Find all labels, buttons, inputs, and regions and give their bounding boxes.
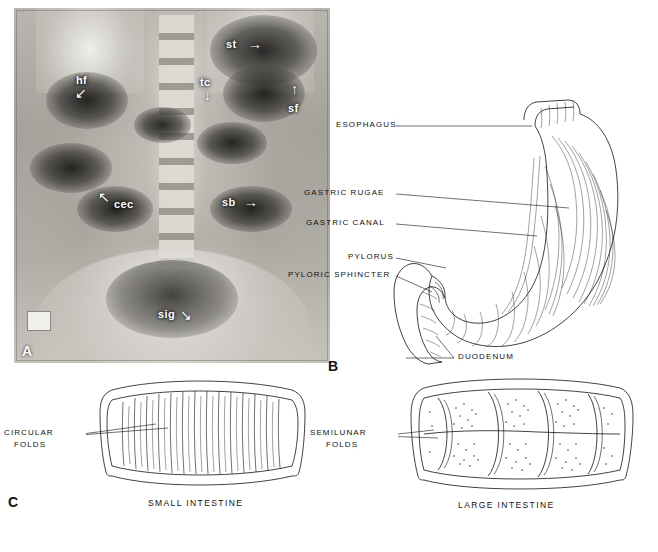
- panel-c-small-intestine: CIRCULAR FOLDS SMALL INTESTINE C: [86, 372, 346, 512]
- label-circular-folds-line1: CIRCULAR: [4, 428, 54, 437]
- label-duodenum: DUODENUM: [458, 352, 514, 361]
- arrow-tc: ↓: [204, 88, 211, 102]
- label-semilunar-folds-line1: SEMILUNAR: [310, 428, 367, 437]
- large-intestine-drawing: [398, 372, 654, 512]
- panel-b-stomach: ESOPHAGUS GASTRIC RUGAE GASTRIC CANAL PY…: [336, 96, 650, 372]
- label-pylorus: PYLORUS: [348, 252, 394, 261]
- caption-small-intestine: SMALL INTESTINE: [148, 498, 243, 508]
- caption-large-intestine: LARGE INTESTINE: [458, 500, 555, 510]
- label-sf: sf: [288, 102, 299, 114]
- arrow-sf: ↑: [291, 82, 298, 96]
- label-esophagus: ESOPHAGUS: [336, 120, 397, 129]
- panel-a-radiograph: st → hf ↙ tc ↓ ↑ sf ↖ cec sb → sig ↘ A: [14, 8, 330, 363]
- panel-letter-c: C: [8, 494, 18, 510]
- label-st: st: [226, 38, 237, 50]
- panel-c-large-intestine: SEMILUNAR FOLDS LARGE INTESTINE: [398, 372, 654, 512]
- panel-letter-a: A: [22, 343, 32, 359]
- arrow-hf: ↙: [75, 86, 87, 100]
- label-gastric-canal: GASTRIC CANAL: [306, 218, 385, 227]
- figure-root: st → hf ↙ tc ↓ ↑ sf ↖ cec sb → sig ↘ A: [0, 0, 658, 552]
- label-pyloric-sphincter: PYLORIC SPHINCTER: [288, 270, 390, 279]
- stomach-drawing: [336, 96, 650, 372]
- arrow-sig: ↘: [180, 308, 192, 322]
- label-cec: cec: [114, 198, 134, 210]
- label-circular-folds-line2: FOLDS: [14, 440, 46, 449]
- arrow-st: →: [248, 37, 262, 51]
- label-sb: sb: [222, 196, 236, 208]
- arrow-sb: →: [244, 195, 258, 209]
- label-gastric-rugae: GASTRIC RUGAE: [304, 188, 385, 197]
- arrow-cec: ↖: [98, 190, 110, 204]
- label-sig: sig: [158, 308, 175, 320]
- label-semilunar-folds-line2: FOLDS: [326, 440, 358, 449]
- small-intestine-drawing: [86, 372, 346, 512]
